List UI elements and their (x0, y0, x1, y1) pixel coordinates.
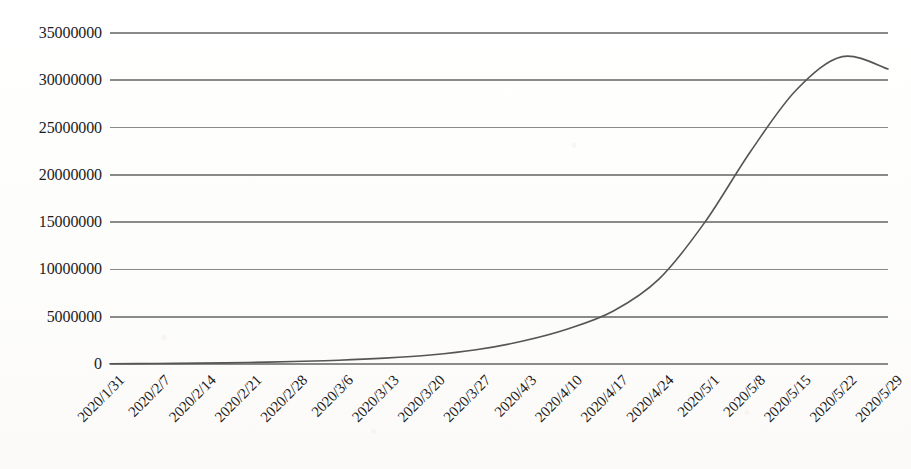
y-axis-tick-label: 20000000 (39, 166, 102, 184)
y-axis-tick-label: 5000000 (47, 308, 102, 326)
series-line-cumulative (110, 56, 888, 364)
chart-container: 3500000030000000250000002000000015000000… (0, 0, 911, 469)
y-axis-tick-label: 30000000 (39, 71, 102, 89)
gridlines-group (110, 33, 888, 364)
y-axis-tick-label: 0 (94, 355, 102, 373)
y-axis-tick-label: 25000000 (39, 119, 102, 137)
y-axis-tick-label: 10000000 (39, 260, 102, 278)
y-axis-tick-label: 15000000 (39, 213, 102, 231)
data-series-group (110, 56, 888, 364)
y-axis-tick-label: 35000000 (39, 24, 102, 42)
